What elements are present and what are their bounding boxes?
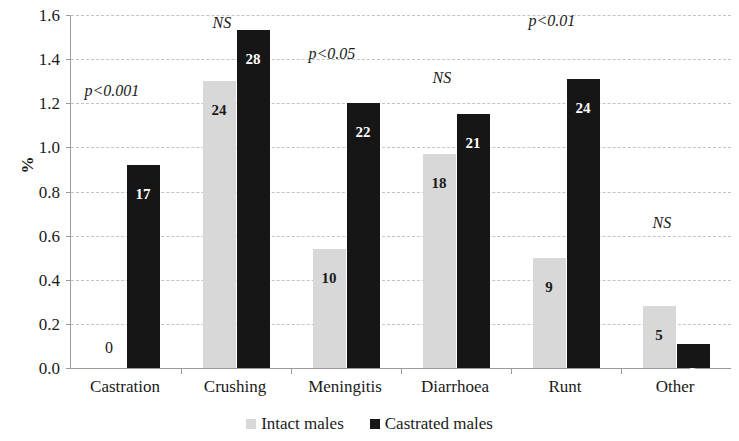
bar: 2: [677, 344, 710, 368]
legend-label: Intact males: [261, 415, 344, 432]
y-axis-tick: [66, 236, 71, 237]
bar: 10: [313, 249, 346, 368]
y-axis-tick-label: 0.4: [14, 272, 60, 289]
y-axis-tick: [66, 103, 71, 104]
significance-annotation: p<0.001: [85, 83, 140, 99]
x-axis-tick: [621, 368, 622, 374]
x-axis-label: Castration: [70, 378, 180, 395]
bar-value-label: 17: [127, 187, 160, 202]
y-axis-tick: [66, 59, 71, 60]
x-axis-label: Crushing: [180, 378, 290, 395]
legend-label: Castrated males: [385, 415, 493, 432]
gridline: [71, 192, 731, 193]
gridline: [71, 280, 731, 281]
y-axis-tick-label: 0.8: [14, 184, 60, 201]
legend-item[interactable]: Intact males: [246, 415, 344, 432]
significance-annotation: NS: [653, 215, 672, 231]
gridline: [71, 103, 731, 104]
x-axis-tick: [291, 368, 292, 374]
x-axis-tick: [181, 368, 182, 374]
bar: 22: [347, 103, 380, 368]
bar-value-label: 5: [643, 328, 676, 343]
bar: 28: [237, 30, 270, 368]
gridline: [71, 59, 731, 60]
significance-annotation: NS: [433, 70, 452, 86]
bar: 18: [423, 154, 456, 368]
y-axis-tick: [66, 280, 71, 281]
bar-value-label: 22: [347, 125, 380, 140]
significance-annotation: NS: [213, 15, 232, 31]
y-axis-tick-label: 1.6: [14, 7, 60, 24]
bar-value-label: 21: [457, 136, 490, 151]
bar-chart: % 0.00.20.40.60.81.01.21.41.6 0172428102…: [0, 0, 739, 441]
y-axis-tick-labels: 0.00.20.40.60.81.01.21.41.6: [14, 0, 60, 441]
legend-item[interactable]: Castrated males: [370, 415, 493, 432]
gridline: [71, 147, 731, 148]
legend-swatch-icon: [246, 419, 256, 429]
significance-annotation: p<0.05: [309, 46, 356, 62]
x-axis-label: Diarrhoea: [400, 378, 510, 395]
y-axis-tick-label: 0.0: [14, 360, 60, 377]
y-axis-tick-label: 1.4: [14, 51, 60, 68]
y-axis-tick-label: 1.0: [14, 139, 60, 156]
x-axis-label: Other: [620, 378, 730, 395]
gridline: [71, 324, 731, 325]
y-axis-tick: [66, 192, 71, 193]
chart-legend: Intact malesCastrated males: [0, 415, 739, 432]
bar: 5: [643, 306, 676, 368]
bar: 9: [533, 258, 566, 368]
bar-value-label: 10: [313, 271, 346, 286]
y-axis-tick: [66, 368, 71, 369]
x-axis-label: Runt: [510, 378, 620, 395]
y-axis-tick-label: 1.2: [14, 95, 60, 112]
y-axis-tick-label: 0.6: [14, 228, 60, 245]
y-axis-tick: [66, 324, 71, 325]
bar-value-label: 9: [533, 280, 566, 295]
bar-value-label: 18: [423, 176, 456, 191]
bar-value-label: 0: [93, 340, 126, 356]
x-axis-label: Meningitis: [290, 378, 400, 395]
bar: 24: [203, 81, 236, 368]
bar-value-label: 28: [237, 52, 270, 67]
bar: 24: [567, 79, 600, 368]
x-axis-tick: [401, 368, 402, 374]
significance-annotation: p<0.01: [529, 13, 576, 29]
y-axis-tick: [66, 147, 71, 148]
legend-swatch-icon: [370, 419, 380, 429]
x-axis-tick: [511, 368, 512, 374]
plot-area: 01724281022182192452 p<0.001NSp<0.05NSp<…: [70, 15, 731, 369]
bar-value-label: 24: [567, 101, 600, 116]
bar: 17: [127, 165, 160, 368]
gridline: [71, 236, 731, 237]
bar-value-label: 24: [203, 103, 236, 118]
y-axis-tick-label: 0.2: [14, 316, 60, 333]
bar: 21: [457, 114, 490, 368]
y-axis-tick: [66, 15, 71, 16]
gridline: [71, 15, 731, 16]
